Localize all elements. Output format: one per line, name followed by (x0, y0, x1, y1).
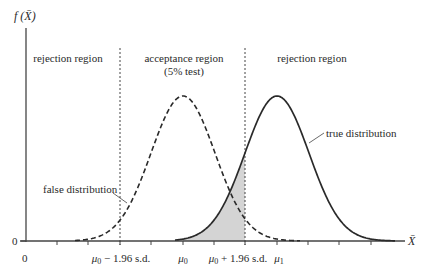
mu0-label: μ0 (178, 253, 188, 266)
acceptance-region-label: acceptance region (144, 53, 223, 64)
y-axis-label: f (X̄) (14, 10, 36, 22)
shaded-acceptance-area (183, 153, 245, 241)
upper-critical-value-label: μ0 + 1.96 s.d. (209, 253, 268, 266)
left-rejection-region-label: rejection region (33, 53, 102, 64)
true-distribution-curve (175, 96, 395, 241)
false-distribution-label: false distribution (43, 184, 117, 195)
true-distribution-leader (309, 133, 324, 143)
mu1-label: μ1 (274, 253, 284, 266)
false-distribution-curve (75, 96, 300, 241)
acceptance-test-size-label: (5% test) (164, 66, 204, 77)
x-axis-label: X̄ (408, 235, 415, 247)
plot-area (0, 0, 426, 278)
lower-critical-value-label: μ0 − 1.96 s.d. (92, 253, 151, 266)
hypothesis-test-diagram: f (X̄) X̄ 0 0 rejection region acceptanc… (0, 0, 426, 278)
true-distribution-label: true distribution (326, 128, 397, 139)
x-zero-label: 0 (22, 253, 28, 264)
y-zero-label: 0 (12, 236, 18, 247)
right-rejection-region-label: rejection region (277, 53, 346, 64)
